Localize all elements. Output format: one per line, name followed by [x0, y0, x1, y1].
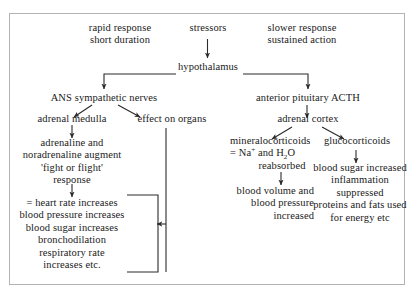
- block-glucocorticoid-effects: blood sugar increased inflammation suppr…: [306, 162, 414, 224]
- label-ans-sympathetic-nerves: ANS sympathetic nerves: [36, 92, 172, 104]
- label-slower-response: slower response sustained action: [238, 22, 366, 47]
- block-blood-volume: blood volume and blood pressure increase…: [208, 185, 314, 222]
- label-adrenal-cortex: adrenal cortex: [262, 113, 354, 125]
- label-hypothalamus: hypothalamus: [168, 61, 248, 73]
- block-sympathetic-effects: = heart rate increases blood pressure in…: [2, 197, 142, 271]
- label-effect-on-organs: effect on organs: [126, 113, 218, 125]
- diagram-canvas: rapid response short duration stressors …: [0, 0, 416, 295]
- label-adrenaline-augment: adrenaline and noradrenaline augment 'fi…: [8, 137, 136, 187]
- label-stressors: stressors: [172, 22, 244, 34]
- mineralocorticoids-detail-mid: and H: [255, 147, 284, 158]
- mineralocorticoids-detail-suffix: O: [287, 147, 295, 158]
- mineralocorticoids-detail-prefix: = Na: [230, 147, 251, 158]
- label-glucocorticoids: glucocorticoids: [314, 135, 400, 147]
- label-adrenal-medulla: adrenal medulla: [22, 113, 122, 125]
- label-rapid-response: rapid response short duration: [60, 22, 180, 47]
- label-mineralocorticoids-detail: = Na+ and H2O: [230, 147, 334, 159]
- label-anterior-pituitary-acth: anterior pituitary ACTH: [240, 92, 376, 104]
